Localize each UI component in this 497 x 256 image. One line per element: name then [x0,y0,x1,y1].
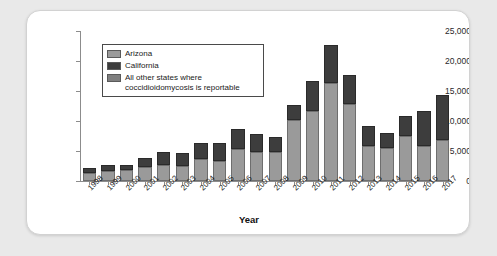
bar-segment-california [83,168,96,173]
legend-item-arizona: Arizona [107,49,258,59]
bar-segment-arizona [287,120,300,181]
bar-segment-arizona [343,104,356,181]
bar-group [436,95,449,181]
bar-segment-arizona [436,140,449,181]
bar-group [417,111,430,181]
bar-segment-california [194,143,207,159]
chart-plot-area: 05,00010,00015,00020,00025,000 199819992… [27,11,470,235]
bar-group [362,126,375,181]
bar-segment-california [157,152,170,165]
bar-segment-california [176,153,189,166]
bar-group [213,143,226,181]
legend-item-other-states: All other states where coccidioidomycosi… [107,73,258,92]
bar-group [269,137,282,181]
bar-segment-california [417,111,430,145]
legend-swatch-other-states [107,74,121,82]
bar-group [399,116,412,181]
legend-label-other-states: All other states where coccidioidomycosi… [125,73,258,92]
bar-segment-arizona [362,146,375,181]
bar-segment-california [213,143,226,160]
bar-segment-california [306,81,319,110]
bar-segment-california [101,165,114,170]
bar-segment-california [250,134,263,153]
bar-segment-arizona [399,136,412,181]
bar-segment-california [231,129,244,149]
bar-segment-arizona [231,149,244,181]
bar-group [306,81,319,181]
bar-segment-california [436,95,449,140]
x-axis-title: Year [27,214,470,225]
bar-segment-arizona [306,111,319,181]
bar-group [194,143,207,181]
legend-swatch-california [107,62,121,70]
bar-group [231,129,244,181]
chart-card: 05,00010,00015,00020,00025,000 199819992… [26,10,470,235]
bar-segment-california [287,105,300,120]
legend-swatch-arizona [107,50,121,58]
bar-segment-california [399,116,412,136]
chart-legend: Arizona California All other states wher… [102,44,264,97]
bar-group [250,134,263,181]
bar-segment-arizona [324,83,337,181]
bar-segment-california [324,45,337,83]
bar-group [343,75,356,181]
bar-segment-california [343,75,356,104]
bar-segment-california [362,126,375,146]
bar-segment-california [138,158,151,167]
bar-segment-california [269,137,282,152]
bar-group [287,105,300,181]
bar-segment-california [120,165,133,170]
legend-item-california: California [107,61,258,71]
bar-segment-arizona [417,146,430,181]
bar-group [380,133,393,181]
legend-label-california: California [125,61,159,71]
bar-segment-california [380,133,393,148]
bar-group [157,152,170,181]
legend-label-arizona: Arizona [125,49,152,59]
bar-group [324,45,337,181]
bar-segment-arizona [380,148,393,181]
